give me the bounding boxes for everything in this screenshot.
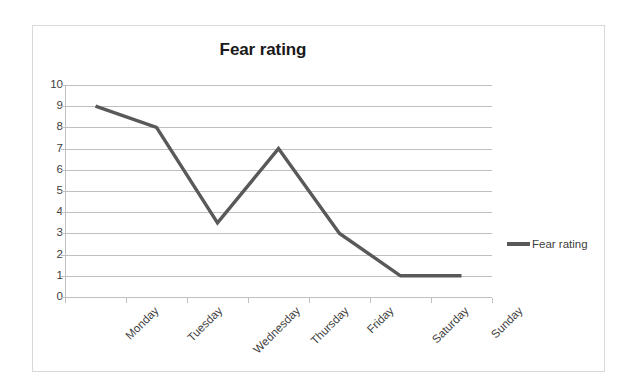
- y-tick-label-2: 2: [37, 249, 63, 261]
- x-tick-mark-7: [492, 298, 493, 303]
- y-tick-label-9: 9: [37, 100, 63, 112]
- y-tick-label-4: 4: [37, 206, 63, 218]
- x-tick-mark-4: [309, 298, 310, 303]
- x-tick-label-saturday: Saturday: [430, 305, 471, 346]
- series-line-chart: [65, 85, 492, 298]
- x-tick-mark-3: [248, 298, 249, 303]
- y-tick-label-10: 10: [37, 79, 63, 91]
- y-tick-label-5: 5: [37, 185, 63, 197]
- x-tick-mark-2: [187, 298, 188, 303]
- x-tick-label-tuesday: Tuesday: [185, 305, 224, 344]
- chart-legend: Fear rating: [507, 238, 588, 250]
- series-line-fear-rating: [96, 106, 462, 276]
- x-tick-label-thursday: Thursday: [309, 305, 351, 347]
- y-tick-label-6: 6: [37, 164, 63, 176]
- x-tick-mark-5: [370, 298, 371, 303]
- y-tick-label-8: 8: [37, 121, 63, 133]
- legend-line-swatch: [507, 242, 530, 246]
- chart-title: Fear rating: [33, 40, 493, 60]
- y-tick-label-7: 7: [37, 143, 63, 155]
- y-tick-label-1: 1: [37, 270, 63, 282]
- y-tick-label-0: 0: [37, 291, 63, 303]
- plot-area: [65, 85, 492, 297]
- x-tick-label-monday: Monday: [123, 305, 160, 342]
- x-tick-label-sunday: Sunday: [489, 305, 525, 341]
- y-axis-tick-labels: 109876543210: [35, 85, 63, 297]
- legend-label-fear-rating: Fear rating: [532, 238, 588, 250]
- x-tick-mark-0: [65, 298, 66, 303]
- x-tick-label-friday: Friday: [365, 305, 396, 336]
- x-tick-mark-1: [126, 298, 127, 303]
- chart-frame: Fear rating 109876543210 MondayTuesdayWe…: [32, 25, 605, 372]
- x-tick-mark-6: [431, 298, 432, 303]
- y-tick-label-3: 3: [37, 227, 63, 239]
- x-axis-tick-marks: [65, 298, 492, 304]
- x-axis-tick-labels: MondayTuesdayWednesdayThursdayFridaySatu…: [65, 305, 515, 375]
- x-tick-label-wednesday: Wednesday: [251, 305, 302, 356]
